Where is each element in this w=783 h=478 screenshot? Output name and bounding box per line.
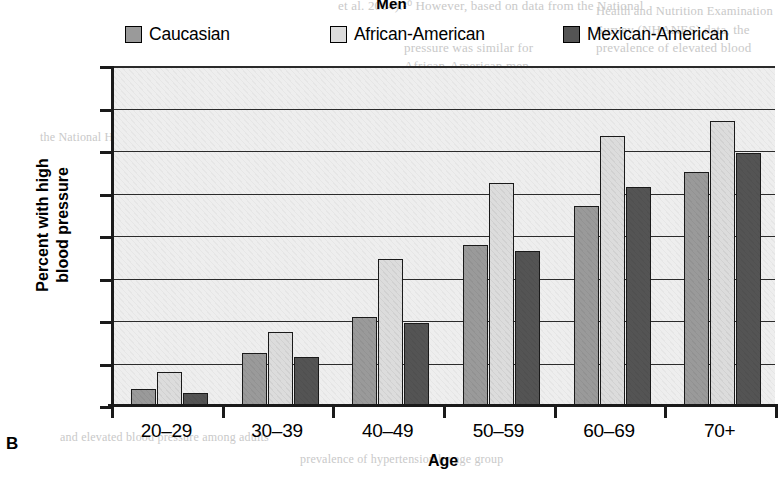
bar bbox=[242, 353, 267, 406]
gridline-60 bbox=[114, 151, 775, 152]
chart-legend: Caucasian African-American Mexican-Ameri… bbox=[125, 22, 765, 46]
legend-swatch-mexican-american bbox=[563, 26, 580, 43]
plot-area bbox=[111, 66, 775, 406]
legend-label-caucasian: Caucasian bbox=[149, 24, 230, 45]
bar-texture bbox=[490, 184, 513, 405]
x-tick-3 bbox=[443, 404, 446, 418]
x-tick-1 bbox=[222, 404, 225, 418]
bar bbox=[684, 172, 709, 406]
bar bbox=[600, 136, 625, 406]
bar bbox=[294, 357, 319, 406]
bar bbox=[352, 317, 377, 406]
x-tick-2 bbox=[332, 404, 335, 418]
bar bbox=[268, 332, 293, 406]
x-tick-0 bbox=[111, 404, 114, 418]
bar-texture bbox=[685, 173, 708, 405]
bar-texture bbox=[601, 137, 624, 405]
x-tick-label-3: 40–49 bbox=[333, 420, 443, 442]
y-axis-title-line2: blood pressure bbox=[54, 167, 71, 283]
bar bbox=[626, 187, 651, 406]
y-tick-70 bbox=[100, 109, 111, 112]
bar-texture bbox=[269, 333, 292, 405]
x-tick-4 bbox=[554, 404, 557, 418]
y-tick-0 bbox=[100, 406, 111, 409]
y-tick-20 bbox=[100, 321, 111, 324]
bar bbox=[574, 206, 599, 406]
legend-swatch-caucasian bbox=[125, 26, 142, 43]
bar bbox=[515, 251, 540, 406]
x-tick-label-1: 20–29 bbox=[111, 420, 221, 442]
y-tick-10 bbox=[100, 364, 111, 367]
bar bbox=[378, 259, 403, 406]
bar-texture bbox=[295, 358, 318, 405]
bar-texture bbox=[464, 246, 487, 406]
y-axis-title-line1: Percent with high bbox=[34, 158, 51, 291]
y-tick-30 bbox=[100, 279, 111, 282]
x-tick-label-4: 50–59 bbox=[443, 420, 553, 442]
legend-item-mexican-american[interactable]: Mexican-American bbox=[563, 24, 729, 45]
x-tick-6 bbox=[775, 404, 778, 418]
bar-texture bbox=[379, 260, 402, 405]
y-tick-50 bbox=[100, 194, 111, 197]
gridline-40 bbox=[114, 236, 775, 237]
bar-texture bbox=[711, 122, 734, 405]
gridline-70 bbox=[114, 109, 775, 110]
bar bbox=[736, 153, 761, 406]
gridline-20 bbox=[114, 321, 775, 322]
x-axis-title: Age bbox=[111, 452, 775, 470]
bar bbox=[157, 372, 182, 406]
y-tick-60 bbox=[100, 151, 111, 154]
x-tick-5 bbox=[664, 404, 667, 418]
bar-texture bbox=[158, 373, 181, 405]
bar-texture bbox=[132, 390, 155, 405]
legend-swatch-african-american bbox=[330, 26, 347, 43]
bar-texture bbox=[737, 154, 760, 405]
y-tick-40 bbox=[100, 236, 111, 239]
bar-texture bbox=[516, 252, 539, 405]
gridline-30 bbox=[114, 279, 775, 280]
bar bbox=[710, 121, 735, 406]
bar-texture bbox=[405, 324, 428, 405]
y-axis-title: Percent with high blood pressure bbox=[33, 80, 73, 370]
bar-texture bbox=[243, 354, 266, 405]
legend-label-mexican-american: Mexican-American bbox=[587, 24, 729, 45]
bar-texture bbox=[353, 318, 376, 405]
bar-texture bbox=[575, 207, 598, 405]
bar bbox=[489, 183, 514, 406]
bar bbox=[404, 323, 429, 406]
legend-item-african-american[interactable]: African-American bbox=[330, 24, 485, 45]
chart-title: Men bbox=[0, 0, 783, 12]
x-tick-label-2: 30–39 bbox=[222, 420, 332, 442]
bar-texture bbox=[627, 188, 650, 405]
gridline-10 bbox=[114, 364, 775, 365]
x-tick-label-5: 60–69 bbox=[554, 420, 664, 442]
legend-item-caucasian[interactable]: Caucasian bbox=[125, 24, 230, 45]
bar bbox=[463, 245, 488, 407]
legend-label-african-american: African-American bbox=[354, 24, 485, 45]
y-tick-80 bbox=[100, 66, 111, 69]
panel-label: B bbox=[6, 434, 18, 454]
x-tick-label-6: 70+ bbox=[665, 420, 775, 442]
gridline-80 bbox=[114, 66, 775, 68]
gridline-50 bbox=[114, 194, 775, 195]
